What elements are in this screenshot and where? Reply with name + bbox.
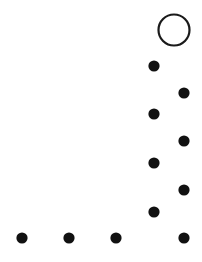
dot-col-left-3 [148, 157, 159, 168]
dot-col-right-2 [178, 135, 189, 146]
dot-row-bottom-3 [110, 232, 121, 243]
figure-canvas [0, 0, 202, 262]
ring-top-right [159, 15, 190, 46]
dot-col-left-1 [148, 60, 159, 71]
dot-row-bottom-4 [178, 232, 189, 243]
dot-col-left-4 [148, 206, 159, 217]
open-marker-group [159, 15, 190, 46]
dot-row-bottom-2 [63, 232, 74, 243]
dot-row-bottom-1 [16, 232, 27, 243]
dot-col-right-3 [178, 184, 189, 195]
dot-col-right-1 [178, 87, 189, 98]
dot-col-left-2 [148, 108, 159, 119]
scatter-plot [0, 0, 202, 262]
